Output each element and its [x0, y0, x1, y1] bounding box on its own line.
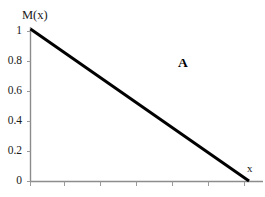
x-axis-ticks-group: [31, 182, 245, 187]
region-label-a: A: [178, 55, 188, 71]
y-tick-label-0.4: 0.4: [0, 115, 22, 127]
y-axis-title: M(x): [22, 9, 48, 21]
x-axis-title: x: [247, 162, 253, 174]
y-tick-label-0.2: 0.2: [0, 145, 22, 157]
data-series-group: [31, 29, 250, 181]
y-tick-label-0.8: 0.8: [0, 55, 22, 67]
membership-function-line: [31, 29, 250, 181]
y-tick-label-0.6: 0.6: [0, 85, 22, 97]
plot-canvas: [0, 0, 265, 197]
y-tick-label-1: 1: [0, 25, 22, 37]
y-tick-label-0: 0: [0, 175, 22, 187]
chart-figure: M(x) 1 0.8 0.6 0.4 0.2 0 A x: [0, 0, 265, 197]
axes-group: [30, 27, 263, 182]
